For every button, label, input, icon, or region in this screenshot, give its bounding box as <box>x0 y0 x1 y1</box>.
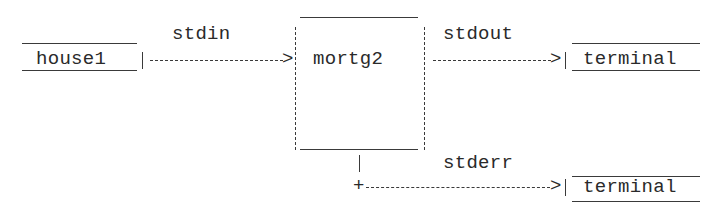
stderr-terminal-label: terminal <box>583 176 677 198</box>
stdin-arrowhead: > <box>282 48 294 70</box>
stdout-end-bar <box>565 52 566 69</box>
stdin-label: stdin <box>172 23 231 45</box>
stderr-terminal-bottom-line <box>572 201 700 202</box>
stdout-arrowhead: > <box>550 48 562 70</box>
stdout-label: stdout <box>443 23 513 45</box>
stderr-drop-bar <box>359 155 360 172</box>
mortg2-right-side <box>424 27 425 150</box>
house1-bottom-line <box>22 70 137 71</box>
stdout-terminal-label: terminal <box>583 48 677 70</box>
stdin-start-bar <box>142 52 143 69</box>
house1-top-line <box>22 43 137 44</box>
stdout-terminal-top-line <box>572 43 700 44</box>
stdout-arrow-line <box>433 60 551 61</box>
house1-label: house1 <box>36 48 106 70</box>
stdout-terminal-bottom-line <box>572 70 700 71</box>
stderr-end-bar <box>565 179 566 196</box>
stderr-arrowhead: > <box>550 175 562 197</box>
stderr-corner: + <box>353 175 365 197</box>
mortg2-top-line <box>300 17 418 18</box>
mortg2-label: mortg2 <box>313 48 383 70</box>
stdin-arrow-line <box>150 60 283 61</box>
stderr-label: stderr <box>443 152 513 174</box>
stderr-arrow-line <box>366 187 550 188</box>
mortg2-bottom-line <box>300 149 418 150</box>
mortg2-left-side <box>295 27 296 150</box>
